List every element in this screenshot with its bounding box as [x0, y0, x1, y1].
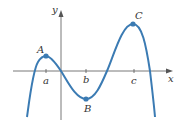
- point-label-b: B: [84, 104, 91, 114]
- tick-label-b: b: [83, 75, 89, 85]
- x-axis-label: x: [168, 74, 174, 84]
- point-label-c: C: [135, 11, 143, 21]
- tick-label-c: c: [131, 76, 137, 86]
- y-axis-label: y: [52, 5, 58, 15]
- point-c-marker: [130, 21, 135, 26]
- point-label-a: A: [37, 45, 44, 55]
- function-graph: y x a b c A B C: [0, 0, 181, 125]
- tick-label-a: a: [43, 76, 49, 86]
- y-axis-arrow-icon: [59, 10, 64, 17]
- point-b-marker: [83, 96, 88, 101]
